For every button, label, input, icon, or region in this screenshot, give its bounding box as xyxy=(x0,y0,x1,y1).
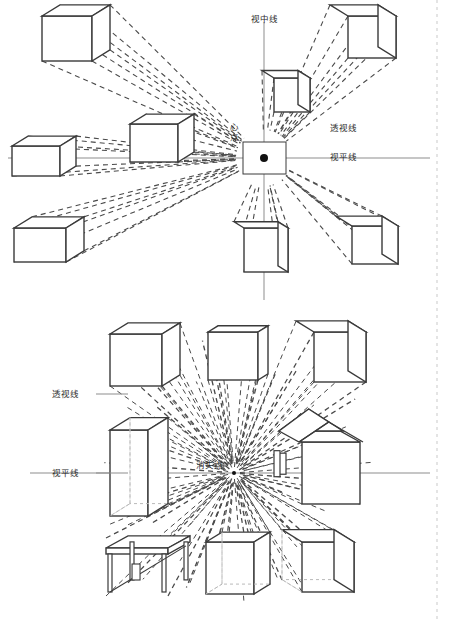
box-bottom-center-side-face xyxy=(254,532,270,594)
horizon-line-label: 视平线 xyxy=(330,152,357,162)
cube-top-left-ray-4 xyxy=(162,386,228,465)
cube-upper-center-ray-4 xyxy=(284,112,310,138)
cube-lower-left-ray-6 xyxy=(84,167,237,217)
center-point-dot xyxy=(260,154,268,162)
perspective-diagram-svg: 视中线 透视线 视平线 心 点 透视线 视平线 消失点 xyxy=(0,0,453,621)
vanishing-point-label: 消失点 xyxy=(196,460,223,470)
center-point-label-char-2: 点 xyxy=(230,132,239,142)
cube-top-center-ray-3 xyxy=(208,380,231,463)
cube-lower-left-ray-7 xyxy=(84,171,239,251)
cube-top-right-side-face xyxy=(348,321,366,382)
cube-lower-left-front-face xyxy=(14,228,66,262)
cube-lower-left-ray-2 xyxy=(66,167,238,228)
cube-upper-center-ray-1 xyxy=(267,78,274,130)
vanishing-point-dot xyxy=(232,471,236,475)
table-bottom-left-leg-1 xyxy=(108,554,112,592)
cube-top-left-front-face xyxy=(110,334,162,386)
cube-lower-center-ray-5 xyxy=(234,183,252,221)
center-point-label-char-1: 心 xyxy=(230,122,239,132)
center-vision-line-label: 视中线 xyxy=(251,14,278,24)
cube-top-center-front-face xyxy=(208,332,258,380)
table-bottom-left-inner-detail xyxy=(132,564,140,580)
cube-upper-center-ray-3 xyxy=(270,112,274,131)
center-point-marker-group xyxy=(243,142,286,174)
bottom-panel-group: 透视线 视平线 消失点 xyxy=(30,321,430,602)
cube-lower-right-ray-6 xyxy=(289,170,382,216)
cube-upper-center-ray-5 xyxy=(262,71,263,130)
house-right-front-wall xyxy=(302,442,360,504)
perspective-lines-label: 透视线 xyxy=(330,123,357,133)
cube-top-left-front-face xyxy=(42,16,92,61)
table-bottom-left-leg-4 xyxy=(184,542,188,580)
house-right-ray-3 xyxy=(243,477,302,504)
bottom-perspective-lines-label: 透视线 xyxy=(52,389,79,399)
box-bottom-center-front-face xyxy=(206,542,254,594)
cube-lower-center-side-face xyxy=(278,222,288,272)
cube-lower-right-ray-3 xyxy=(282,180,352,264)
perspective-diagram-page: 视中线 透视线 视平线 心 点 透视线 视平线 消失点 xyxy=(0,0,453,621)
top-panel-group: 视中线 透视线 视平线 心 点 xyxy=(8,5,430,300)
top-cubes-group xyxy=(12,5,398,272)
box-transparent-left-side-face xyxy=(148,418,168,516)
cube-top-center-side-face xyxy=(258,326,268,380)
cube-upper-center-side-face xyxy=(298,71,310,112)
cube-mid-left-front-face xyxy=(130,124,178,162)
bottom-horizon-line-label: 视平线 xyxy=(52,468,79,478)
table-bottom-left-top-edge xyxy=(106,548,168,554)
bottom-objects-group xyxy=(106,321,366,594)
cube-top-center-ray-8 xyxy=(237,374,268,464)
cube-top-left-side-face xyxy=(162,323,180,386)
house-right-ray-1 xyxy=(243,442,302,469)
house-right-door-frame xyxy=(274,451,280,477)
cube-top-center-ray-7 xyxy=(218,374,232,463)
cube-far-left-front-face xyxy=(12,146,60,176)
cube-top-right-ray-5 xyxy=(275,5,330,132)
